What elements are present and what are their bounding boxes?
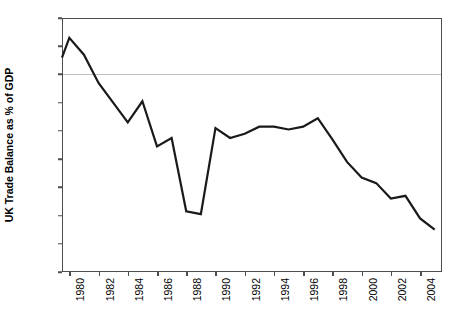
y-tick-mark (58, 74, 62, 76)
x-tick-mark (362, 272, 364, 276)
y-tick-mark (58, 17, 62, 19)
y-axis-title: UK Trade Balance as % of GDP (0, 0, 18, 290)
y-tick-mark (58, 187, 62, 189)
trade-balance-line-chart: UK Trade Balance as % of GDP 2%1%0%-1%-2… (0, 0, 455, 316)
zero-reference-line (63, 74, 441, 75)
x-tick-mark (391, 272, 393, 276)
y-tick-mark (58, 45, 62, 47)
x-tick-label: 1986 (162, 278, 174, 301)
x-tick-label: 1996 (308, 278, 320, 301)
x-tick-label: 1994 (279, 278, 291, 301)
x-tick-label: 2002 (396, 278, 408, 301)
x-tick-label: 1984 (133, 278, 145, 301)
x-tick-mark (128, 272, 130, 276)
x-tick-label: 1982 (104, 278, 116, 301)
x-tick-mark (274, 272, 276, 276)
y-tick-mark (58, 271, 62, 273)
y-tick-mark (58, 158, 62, 160)
x-tick-mark (186, 272, 188, 276)
y-tick-mark (58, 130, 62, 132)
x-tick-label: 2004 (425, 278, 437, 301)
y-tick-mark (58, 243, 62, 245)
y-tick-mark (58, 102, 62, 104)
x-tick-label: 1992 (250, 278, 262, 301)
x-tick-mark (332, 272, 334, 276)
x-tick-label: 2000 (367, 278, 379, 301)
y-axis-title-text: UK Trade Balance as % of GDP (3, 68, 15, 223)
x-tick-mark (245, 272, 247, 276)
x-tick-mark (99, 272, 101, 276)
y-tick-mark (58, 215, 62, 217)
x-tick-mark (215, 272, 217, 276)
x-tick-mark (69, 272, 71, 276)
x-tick-mark (157, 272, 159, 276)
x-tick-label: 1988 (191, 278, 203, 301)
x-tick-label: 1998 (337, 278, 349, 301)
x-tick-mark (420, 272, 422, 276)
plot-area (62, 18, 442, 272)
x-tick-label: 1990 (220, 278, 232, 301)
x-tick-mark (303, 272, 305, 276)
x-tick-label: 1980 (74, 278, 86, 301)
